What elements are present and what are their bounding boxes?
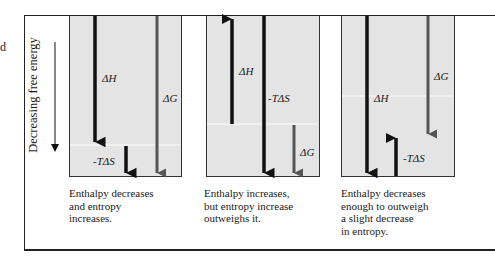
panel-1-caption: Enthalpy decreases and entropy increases… bbox=[69, 187, 154, 225]
axis-arrowhead bbox=[51, 144, 59, 152]
panel-2-dH-label: ΔH bbox=[239, 65, 253, 77]
panel-1-dG-label: ΔG bbox=[163, 92, 177, 104]
panel-2-dG-label: ΔG bbox=[300, 146, 314, 158]
panel-3-caption: Enthalpy decreases enough to outweigh a … bbox=[341, 187, 428, 237]
panel-1-dH-label: ΔH bbox=[102, 72, 116, 84]
panel-1-mTdS-label: -TΔS bbox=[93, 155, 115, 167]
panel-3-mTdS-label: -TΔS bbox=[403, 152, 425, 164]
panel-3-dG-label: ΔG bbox=[434, 70, 448, 82]
panel-3-dH-label: ΔH bbox=[374, 92, 388, 104]
panel-2-mTdS-label: -TΔS bbox=[268, 92, 290, 104]
panel-2-caption: Enthalpy increases, but entropy increase… bbox=[204, 187, 293, 225]
